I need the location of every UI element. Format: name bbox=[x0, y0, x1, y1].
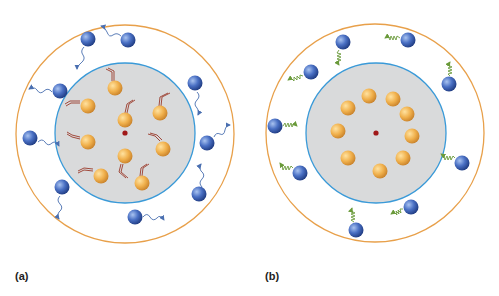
orange-particle bbox=[153, 106, 168, 121]
blue-particle bbox=[81, 32, 96, 47]
orange-particle bbox=[81, 99, 96, 114]
blue-particle bbox=[23, 131, 38, 146]
orange-particle bbox=[331, 124, 346, 139]
orange-particle bbox=[135, 176, 150, 191]
panel-a bbox=[16, 25, 234, 243]
panel-label-b: (b) bbox=[265, 270, 279, 282]
orange-particle bbox=[362, 89, 377, 104]
orange-particle bbox=[400, 107, 415, 122]
blue-particle bbox=[336, 35, 351, 50]
orange-particle bbox=[156, 142, 171, 157]
blue-particle bbox=[349, 223, 364, 238]
orange-particle bbox=[108, 81, 123, 96]
blue-particle bbox=[188, 76, 203, 91]
orange-particle bbox=[341, 151, 356, 166]
orange-particle bbox=[386, 92, 401, 107]
panel-label-a: (a) bbox=[15, 270, 28, 282]
blue-particle bbox=[55, 180, 70, 195]
center-dot-a bbox=[122, 130, 127, 135]
orange-particle bbox=[118, 113, 133, 128]
blue-particle bbox=[304, 65, 319, 80]
orange-particle bbox=[373, 164, 388, 179]
orange-particle bbox=[94, 169, 109, 184]
blue-particle bbox=[404, 200, 419, 215]
diagram-canvas bbox=[0, 0, 499, 296]
orange-particle bbox=[118, 149, 133, 164]
blue-particle bbox=[192, 187, 207, 202]
orange-particle bbox=[81, 135, 96, 150]
blue-particle bbox=[401, 33, 416, 48]
blue-particle bbox=[455, 156, 470, 171]
blue-particle bbox=[442, 77, 457, 92]
blue-particle bbox=[53, 84, 68, 99]
orange-particle bbox=[405, 129, 420, 144]
orange-particle bbox=[341, 101, 356, 116]
panel-b bbox=[266, 24, 484, 242]
center-dot-b bbox=[373, 130, 378, 135]
blue-particle bbox=[121, 33, 136, 48]
blue-particle bbox=[293, 166, 308, 181]
orange-particle bbox=[396, 151, 411, 166]
blue-particle bbox=[200, 136, 215, 151]
blue-particle bbox=[268, 119, 283, 134]
blue-particle bbox=[128, 210, 143, 225]
